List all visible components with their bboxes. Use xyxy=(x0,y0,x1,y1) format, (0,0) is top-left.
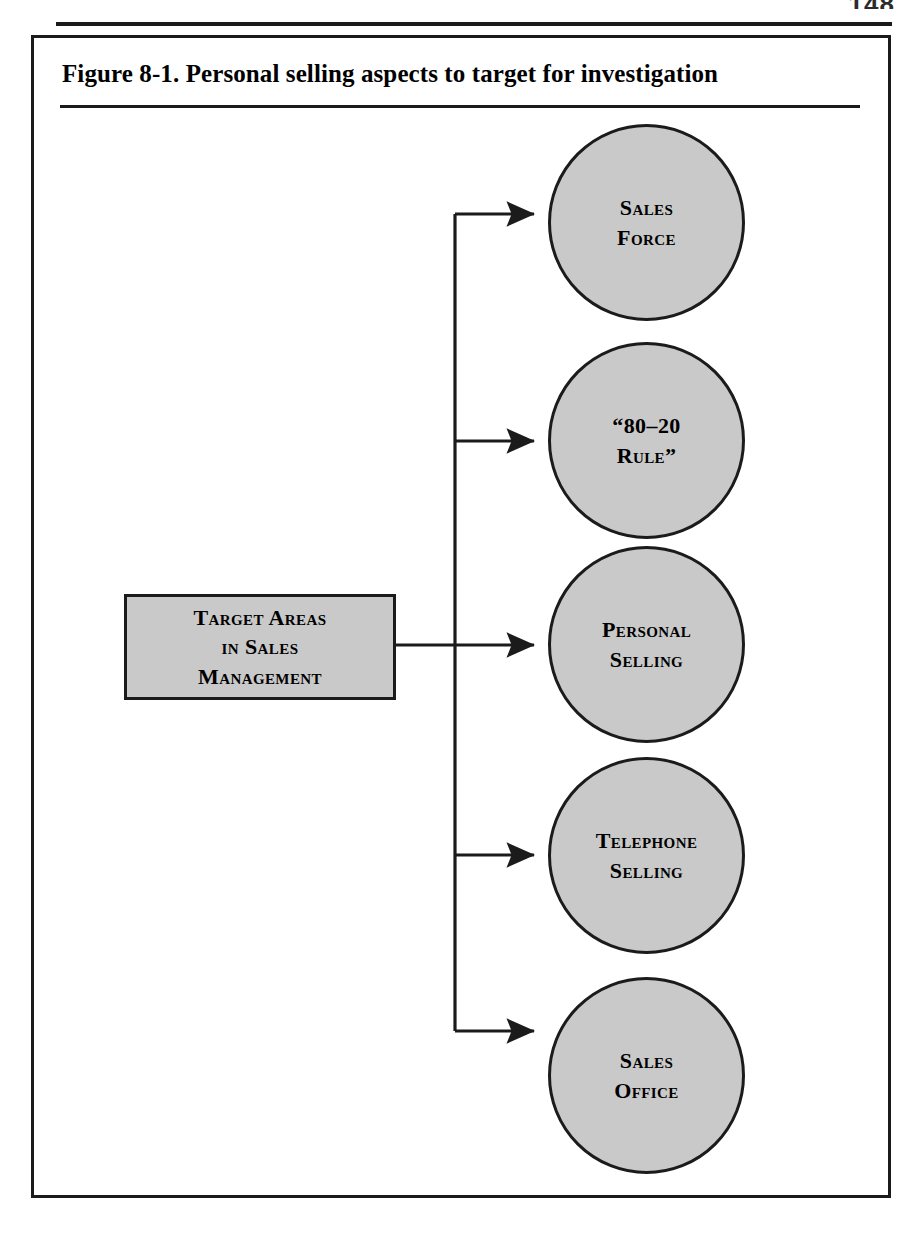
node-eighty-twenty-rule[interactable]: “80–20 Rule” xyxy=(548,342,745,539)
node-personal-selling[interactable]: Personal Selling xyxy=(548,546,745,743)
figure-title: Figure 8-1. Personal selling aspects to … xyxy=(62,60,718,88)
page-number: 148 xyxy=(849,0,895,9)
node-label-line: Rule” xyxy=(617,441,677,470)
node-label-line: Target Areas xyxy=(193,603,326,632)
node-label-line: Telephone xyxy=(596,826,698,855)
node-sales-force[interactable]: Sales Force xyxy=(548,124,745,321)
node-label-line: Selling xyxy=(610,856,683,885)
node-label-line: Selling xyxy=(610,645,683,674)
node-label-line: Sales xyxy=(620,1046,673,1075)
figure-page: 148 Figure 8-1. Personal selling aspects… xyxy=(0,0,915,1237)
node-label-line: Personal xyxy=(602,615,691,644)
node-label-line: “80–20 xyxy=(612,411,680,440)
node-label-line: Sales xyxy=(620,193,673,222)
node-label-line: Management xyxy=(198,662,322,691)
node-target-areas[interactable]: Target Areas in Sales Management xyxy=(124,594,396,700)
node-sales-office[interactable]: Sales Office xyxy=(548,977,745,1174)
node-label-line: in Sales xyxy=(222,632,299,661)
title-rule xyxy=(60,105,860,108)
node-label-line: Office xyxy=(614,1076,679,1105)
node-label-line: Force xyxy=(617,223,676,252)
running-head-rule xyxy=(56,22,892,26)
node-telephone-selling[interactable]: Telephone Selling xyxy=(548,757,745,954)
